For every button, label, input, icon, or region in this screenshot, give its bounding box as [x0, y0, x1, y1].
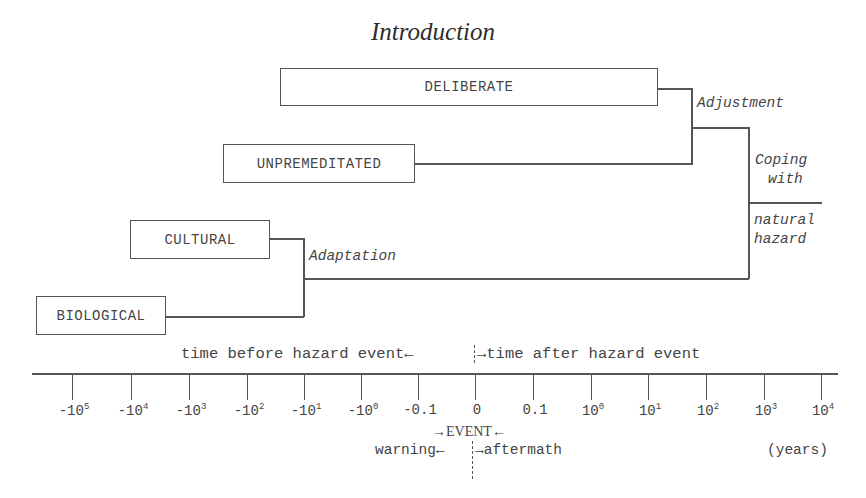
- tick-exponent: 0: [599, 402, 604, 412]
- units-label: (years): [767, 442, 828, 458]
- timeline-tick-label: -105: [59, 402, 90, 419]
- connector-biological: [166, 316, 304, 318]
- timeline-tick-label: -0.1: [403, 402, 437, 418]
- aftermath-label: →aftermath: [475, 442, 562, 458]
- timeline-tick: [764, 374, 765, 400]
- tick-base: 0.1: [522, 402, 547, 418]
- tick-base: -10: [176, 403, 201, 419]
- timeline-tick-label: -101: [291, 402, 322, 419]
- tick-exponent: 3: [201, 402, 206, 412]
- tick-base: -10: [59, 403, 84, 419]
- tick-base: 10: [812, 403, 829, 419]
- adjustment-label: Adjustment: [697, 95, 784, 111]
- tick-base: -0.1: [403, 402, 437, 418]
- timeline-tick: [247, 374, 248, 400]
- page-title: Introduction: [0, 18, 866, 46]
- cultural-box: CULTURAL: [130, 220, 270, 259]
- timeline-tick-label: -102: [234, 402, 265, 419]
- unpremeditated-box: UNPREMEDITATED: [223, 144, 415, 183]
- connector-cultural: [270, 238, 304, 240]
- hazard-label-line2: hazard: [754, 231, 806, 247]
- tick-base: 0: [473, 402, 481, 418]
- tick-exponent: 5: [84, 402, 89, 412]
- timeline-tick: [418, 374, 419, 400]
- tick-base: 10: [755, 403, 772, 419]
- timeline-tick: [361, 374, 362, 400]
- timeline-tick-label: 104: [812, 402, 834, 419]
- timeline-tick-label: 103: [755, 402, 777, 419]
- adaptation-to-coping-connector: [303, 278, 749, 280]
- timeline-tick-label: 0.1: [522, 402, 547, 418]
- tick-base: 10: [639, 403, 656, 419]
- tick-base: -10: [291, 403, 316, 419]
- timeline-tick-label: -104: [118, 402, 149, 419]
- timeline-tick: [591, 374, 592, 400]
- tick-base: 10: [582, 403, 599, 419]
- tick-exponent: 1: [656, 402, 661, 412]
- deliberate-box: DELIBERATE: [280, 68, 658, 106]
- tick-base: -10: [348, 403, 373, 419]
- tick-base: 10: [697, 403, 714, 419]
- tick-exponent: 3: [772, 402, 777, 412]
- tick-exponent: 0: [373, 402, 378, 412]
- event-marker-bottom: [472, 441, 473, 479]
- coping-label-line1: Coping: [755, 152, 807, 168]
- timeline-tick: [475, 374, 476, 400]
- event-label: →EVENT←: [432, 424, 506, 440]
- timeline-tick: [648, 374, 649, 400]
- adaptation-label: Adaptation: [309, 248, 396, 264]
- tick-base: -10: [118, 403, 143, 419]
- warning-label: warning←: [375, 442, 445, 458]
- time-before-label: time before hazard event←: [181, 345, 414, 363]
- connector-unpremeditated: [415, 163, 692, 165]
- timeline-tick: [131, 374, 132, 400]
- timeline-tick: [72, 374, 73, 400]
- timeline-axis: [32, 373, 838, 375]
- timeline-tick-label: 100: [582, 402, 604, 419]
- timeline-tick: [304, 374, 305, 400]
- timeline-tick: [706, 374, 707, 400]
- time-after-label: →time after hazard event: [477, 345, 700, 363]
- biological-box: BIOLOGICAL: [36, 296, 166, 335]
- tick-exponent: 2: [714, 402, 719, 412]
- timeline-tick-label: -103: [176, 402, 207, 419]
- connector-deliberate: [658, 88, 692, 90]
- timeline-tick: [533, 374, 534, 400]
- timeline-tick-label: 101: [639, 402, 661, 419]
- tick-exponent: 4: [829, 402, 834, 412]
- timeline-tick-label: 0: [473, 402, 481, 418]
- tick-exponent: 4: [143, 402, 148, 412]
- coping-label-line2: with: [768, 171, 803, 187]
- timeline-tick: [189, 374, 190, 400]
- coping-divider: [748, 202, 822, 204]
- tick-exponent: 1: [316, 402, 321, 412]
- tick-exponent: 2: [259, 402, 264, 412]
- adjustment-to-coping-connector: [691, 127, 749, 129]
- event-marker-top: [474, 345, 475, 363]
- timeline-tick: [821, 374, 822, 400]
- tick-base: -10: [234, 403, 259, 419]
- hazard-label-line1: natural: [754, 212, 815, 228]
- timeline-tick-label: -100: [348, 402, 379, 419]
- timeline-tick-label: 102: [697, 402, 719, 419]
